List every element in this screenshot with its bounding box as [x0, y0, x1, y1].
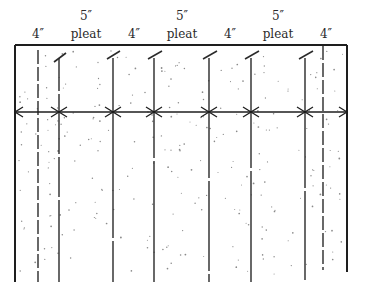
stipple-dot	[320, 58, 322, 60]
stipple-dot	[269, 129, 270, 130]
stipple-dot	[96, 213, 98, 215]
stipple-dot	[310, 74, 311, 75]
stipple-dot	[206, 195, 207, 196]
stipple-dot	[176, 113, 177, 114]
stipple-dot	[242, 80, 244, 82]
stipple-dot	[45, 55, 46, 56]
stipple-dot	[332, 259, 334, 261]
stipple-dot	[247, 271, 248, 272]
stipple-dot	[317, 88, 318, 89]
measurement-arrows	[15, 107, 347, 117]
stipple-dot	[75, 202, 76, 203]
stipple-dot	[177, 177, 178, 178]
stipple-dot	[178, 102, 180, 104]
stipple-dot	[170, 78, 172, 80]
stipple-dot	[298, 150, 299, 151]
stipple-dot	[21, 131, 22, 132]
stipple-dot	[118, 105, 119, 106]
stipple-dot	[234, 209, 235, 210]
stipple-dot	[64, 135, 66, 137]
stipple-dot	[95, 218, 96, 219]
stipple-dot	[147, 240, 148, 241]
pleat-tick-3	[148, 51, 162, 59]
stipple-dot	[161, 135, 162, 136]
stipple-dot	[46, 98, 47, 99]
stipple-dot	[54, 158, 55, 159]
stipple-dot	[21, 221, 22, 222]
stipple-dot	[100, 141, 101, 142]
stipple-dot	[152, 120, 154, 122]
stipple-dot	[217, 172, 218, 173]
stipple-dot	[67, 132, 68, 133]
stipple-dot	[167, 268, 169, 270]
stipple-dot	[262, 226, 263, 227]
stipple-dot	[24, 227, 25, 228]
stipple-dot	[200, 160, 201, 161]
stipple-dot	[291, 265, 292, 266]
stipple-dot	[167, 166, 169, 168]
stipple-dot	[274, 273, 275, 274]
stipple-dot	[238, 213, 240, 215]
stipple-dot	[119, 189, 120, 190]
stipple-dot	[306, 264, 307, 265]
stipple-dot	[51, 247, 52, 248]
stipple-dot	[267, 161, 268, 162]
stipple-dot	[306, 128, 307, 129]
stipple-dot	[108, 130, 109, 131]
stipple-dot	[126, 57, 127, 58]
stipple-dot	[191, 169, 193, 171]
stipple-dot	[45, 66, 46, 67]
stipple-dot	[44, 248, 45, 249]
stipple-dot	[134, 141, 136, 143]
stipple-dot	[34, 261, 36, 263]
stipple-dot	[135, 68, 137, 70]
stipple-dot	[231, 167, 232, 168]
stipple-dot	[287, 90, 288, 91]
stipple-dot	[92, 178, 93, 179]
stipple-dot	[168, 245, 169, 246]
pleat-tick-6	[299, 51, 313, 59]
stipple-dot	[223, 134, 224, 135]
stipple-dot	[328, 123, 329, 124]
pleat-tick-1	[54, 53, 66, 62]
stipple-dot	[175, 65, 176, 66]
stipple-dot	[128, 74, 130, 76]
stipple-dot	[169, 107, 171, 109]
stipple-dot	[120, 237, 122, 239]
section-labels: 4″ 5″ pleat 4″ 5″ pleat 4″ 5″ pleat 4″	[32, 9, 333, 41]
stipple-dot	[342, 54, 343, 55]
stipple-dot	[337, 110, 338, 111]
stipple-dot	[253, 183, 255, 185]
stipple-dot	[19, 96, 21, 98]
stipple-dot	[47, 130, 48, 131]
stipple-dot	[64, 117, 66, 119]
stipple-dot	[72, 51, 74, 53]
stipple-dot	[260, 194, 261, 195]
label-5in-pleat-2: pleat	[167, 27, 198, 41]
stipple-dot	[161, 70, 163, 72]
stipple-dot	[102, 190, 103, 191]
stipple-dot	[300, 198, 301, 199]
stipple-dot	[63, 88, 64, 89]
stipple-dot	[184, 68, 185, 69]
stipple-dot	[73, 229, 74, 230]
stipple-dot	[161, 67, 163, 69]
stipple-dot	[238, 260, 239, 261]
stipple-dot	[185, 254, 187, 256]
stipple-dot	[94, 106, 95, 107]
label-5in-pleat-3-size: 5″	[272, 9, 285, 23]
stipple-dot	[44, 259, 45, 260]
stipple-dot	[203, 99, 204, 100]
stipple-dot	[182, 230, 183, 231]
stipple-dot	[261, 238, 263, 240]
stipple-dot	[320, 194, 322, 196]
stipple-dot	[23, 229, 24, 230]
stipple-dot	[65, 83, 66, 84]
stipple-dot	[312, 169, 313, 170]
stipple-dot	[99, 104, 101, 106]
stipple-dot	[333, 69, 335, 71]
stipple-dot	[265, 97, 266, 98]
stipple-dot	[220, 108, 221, 109]
stipple-dot	[273, 256, 274, 257]
stipple-dot	[225, 198, 226, 199]
